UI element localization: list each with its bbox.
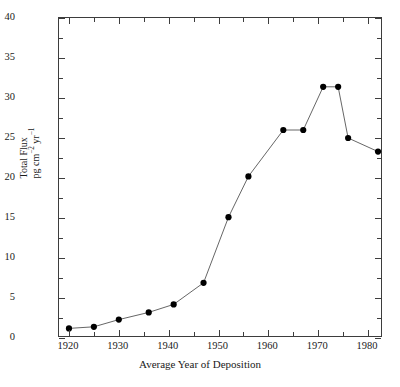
y-tick-major [59, 18, 65, 19]
x-tick-major [69, 330, 70, 336]
y-tick-label: 35 [5, 52, 16, 63]
y-tick-major [59, 258, 65, 259]
data-point-marker [345, 135, 351, 141]
x-tick-label: 1950 [198, 341, 238, 352]
data-series-line [59, 18, 383, 338]
x-tick-label: 1970 [297, 341, 337, 352]
data-point-marker [91, 324, 97, 330]
y-tick-major [59, 298, 65, 299]
y-tick-minor-right [377, 158, 381, 159]
x-tick-label: 1980 [347, 341, 387, 352]
x-tick-major [368, 330, 369, 336]
x-tick-major-top [318, 18, 319, 24]
y-tick-minor [59, 158, 63, 159]
x-tick-major-top [119, 18, 120, 24]
y-tick-minor-right [377, 38, 381, 39]
y-tick-major-right [375, 218, 381, 219]
x-tick-major-top [169, 18, 170, 24]
y-tick-major-right [375, 138, 381, 139]
data-point-marker [335, 84, 341, 90]
x-tick-major-top [219, 18, 220, 24]
y-tick-minor-right [377, 118, 381, 119]
x-tick-minor [194, 332, 195, 336]
x-tick-major [219, 330, 220, 336]
plot-area [58, 17, 382, 337]
y-tick-label: 40 [5, 12, 16, 23]
y-tick-major [59, 218, 65, 219]
y-axis-title-line2: pg cm−2 yr−1 [29, 145, 41, 179]
y-axis-title: Total Flux pg cm−2 yr−1 [18, 145, 41, 179]
x-tick-major [119, 330, 120, 336]
x-tick-minor-top [144, 18, 145, 22]
y-tick-minor [59, 318, 63, 319]
y-tick-major-right [375, 18, 381, 19]
y-tick-major [59, 138, 65, 139]
y-tick-minor [59, 238, 63, 239]
x-tick-major-top [69, 18, 70, 24]
y-tick-major-right [375, 258, 381, 259]
data-point-marker [146, 309, 152, 315]
x-tick-minor [293, 332, 294, 336]
data-point-marker [320, 84, 326, 90]
data-point-marker [245, 173, 251, 179]
y-tick-minor-right [377, 318, 381, 319]
data-point-marker [200, 280, 206, 286]
y-tick-major-right [375, 338, 381, 339]
x-axis-title: Average Year of Deposition [0, 358, 400, 370]
data-point-marker [116, 317, 122, 323]
y-tick-label: 0 [10, 332, 15, 343]
data-point-marker [375, 149, 381, 155]
y-axis-unit-exponent-2: −1 [28, 128, 36, 136]
y-tick-major-right [375, 98, 381, 99]
data-point-marker [300, 127, 306, 133]
y-tick-minor [59, 38, 63, 39]
y-tick-label: 20 [5, 172, 16, 183]
data-point-marker [280, 127, 286, 133]
data-point-marker [225, 214, 231, 220]
y-tick-minor-right [377, 278, 381, 279]
x-tick-minor-top [293, 18, 294, 22]
x-tick-major-top [368, 18, 369, 24]
y-tick-minor [59, 278, 63, 279]
x-tick-minor-top [194, 18, 195, 22]
y-tick-label: 10 [5, 252, 16, 263]
x-tick-minor-top [243, 18, 244, 22]
y-tick-minor [59, 78, 63, 79]
y-tick-major-right [375, 178, 381, 179]
y-tick-major-right [375, 298, 381, 299]
x-tick-minor-top [343, 18, 344, 22]
data-point-marker [171, 301, 177, 307]
x-tick-major [268, 330, 269, 336]
x-tick-label: 1930 [98, 341, 138, 352]
caption-strip [0, 376, 400, 387]
y-tick-minor-right [377, 238, 381, 239]
y-tick-label: 15 [5, 212, 16, 223]
y-tick-label: 30 [5, 92, 16, 103]
x-tick-major [318, 330, 319, 336]
y-axis-unit-prefix: pg cm [29, 154, 40, 179]
x-tick-minor-top [94, 18, 95, 22]
x-tick-major [169, 330, 170, 336]
y-tick-minor [59, 118, 63, 119]
x-tick-label: 1960 [247, 341, 287, 352]
figure-container: Total Flux pg cm−2 yr−1 Average Year of … [0, 0, 400, 387]
x-tick-minor [343, 332, 344, 336]
y-axis-unit-mid: yr [29, 135, 40, 146]
y-tick-minor-right [377, 198, 381, 199]
x-tick-minor [243, 332, 244, 336]
x-tick-minor [144, 332, 145, 336]
y-tick-minor-right [377, 78, 381, 79]
y-tick-major-right [375, 58, 381, 59]
x-tick-major-top [268, 18, 269, 24]
y-tick-major [59, 338, 65, 339]
x-tick-minor [94, 332, 95, 336]
y-tick-major [59, 178, 65, 179]
y-tick-minor [59, 198, 63, 199]
y-tick-major [59, 58, 65, 59]
x-tick-label: 1920 [48, 341, 88, 352]
y-tick-major [59, 98, 65, 99]
y-axis-unit-exponent-1: −2 [28, 146, 36, 154]
y-tick-label: 5 [10, 292, 15, 303]
y-tick-label: 25 [5, 132, 16, 143]
series-polyline [69, 87, 378, 329]
